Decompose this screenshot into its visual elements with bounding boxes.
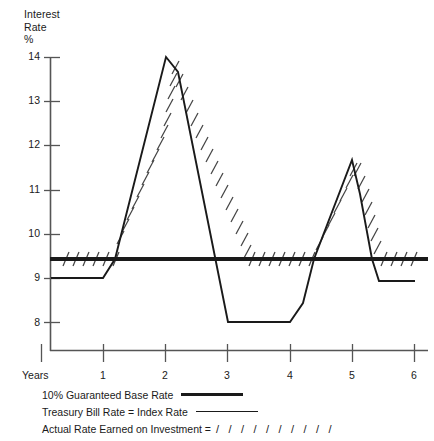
legend-item-base-rate: 10% Guaranteed Base Rate — [42, 386, 432, 403]
axes — [42, 57, 429, 362]
legend-label-index-rate: Treasury Bill Rate = Index Rate — [42, 406, 188, 418]
chart-legend: 10% Guaranteed Base Rate Treasury Bill R… — [42, 386, 432, 437]
legend-item-index-rate: Treasury Bill Rate = Index Rate — [42, 403, 432, 420]
legend-label-base-rate: 10% Guaranteed Base Rate — [42, 389, 173, 401]
legend-label-actual-rate: Actual Rate Earned on Investment = — [42, 423, 211, 435]
legend-item-actual-rate: Actual Rate Earned on Investment = / / /… — [42, 420, 432, 437]
legend-swatch-thick-line — [181, 393, 243, 396]
actual-rate-hatch-marks — [63, 61, 417, 266]
treasury-bill-rate-line — [51, 57, 415, 322]
chart-plot-area — [0, 0, 434, 441]
legend-swatch-thin-line — [196, 411, 258, 413]
legend-swatch-hatch-marks: / / / / / / / / / / — [216, 423, 335, 435]
interest-rate-chart: Interest Rate % 14 13 12 11 10 9 8 Years… — [0, 0, 434, 441]
